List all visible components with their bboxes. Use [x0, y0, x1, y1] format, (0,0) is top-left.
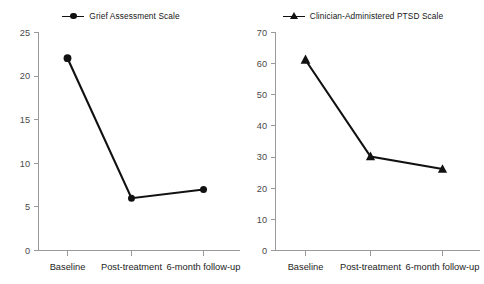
plot-area-grief: 25 20 15 10 5 0 Baseline Post-treatment …: [0, 0, 242, 284]
series-line-grief: [68, 58, 204, 198]
y-tick-label: 50: [257, 90, 267, 100]
y-tick-labels-right: 70 60 50 40 30 20 10 0: [257, 28, 267, 256]
series-markers-grief: [64, 54, 207, 201]
chart-panel-grief: Grief Assessment Scale 25 20 15 10 5: [0, 0, 242, 284]
y-ticks-left: [34, 33, 39, 251]
y-tick-labels-left: 25 20 15 10 5 0: [20, 28, 30, 256]
y-tick-label: 10: [20, 159, 30, 169]
x-tick-labels-right: Baseline Post-treatment 6-month follow-u…: [288, 262, 480, 272]
y-tick-label: 40: [257, 121, 267, 131]
data-point-marker: [64, 54, 72, 62]
y-ticks-right: [271, 33, 276, 251]
y-tick-label: 25: [20, 28, 30, 38]
data-point-marker: [301, 55, 311, 64]
data-point-marker: [200, 186, 207, 193]
x-tick-label: Baseline: [50, 262, 86, 272]
series-line-caps: [306, 60, 443, 169]
y-tick-label: 70: [257, 28, 267, 38]
chart-panel-caps: Clinician-Administered PTSD Scale 70 60 …: [242, 0, 484, 284]
y-tick-label: 5: [25, 202, 30, 212]
x-tick-label: 6-month follow-up: [167, 262, 241, 272]
y-tick-label: 0: [25, 246, 30, 256]
y-tick-label: 15: [20, 115, 30, 125]
x-tick-label: Baseline: [288, 262, 324, 272]
y-tick-label: 30: [257, 152, 267, 162]
y-tick-label: 60: [257, 59, 267, 69]
y-tick-label: 20: [20, 71, 30, 81]
series-markers-caps: [301, 55, 448, 173]
x-tick-labels-left: Baseline Post-treatment 6-month follow-u…: [50, 262, 241, 272]
charts-row: Grief Assessment Scale 25 20 15 10 5: [0, 0, 484, 284]
y-tick-label: 10: [257, 215, 267, 225]
y-tick-label: 20: [257, 184, 267, 194]
y-tick-label: 0: [262, 246, 267, 256]
x-ticks-right: [306, 251, 443, 257]
x-tick-label: 6-month follow-up: [406, 262, 480, 272]
x-ticks-left: [68, 251, 204, 257]
x-tick-label: Post-treatment: [340, 262, 401, 272]
x-tick-label: Post-treatment: [101, 262, 162, 272]
data-point-marker: [128, 195, 135, 202]
plot-area-caps: 70 60 50 40 30 20 10 0 Baseline Post-tre…: [242, 0, 484, 284]
